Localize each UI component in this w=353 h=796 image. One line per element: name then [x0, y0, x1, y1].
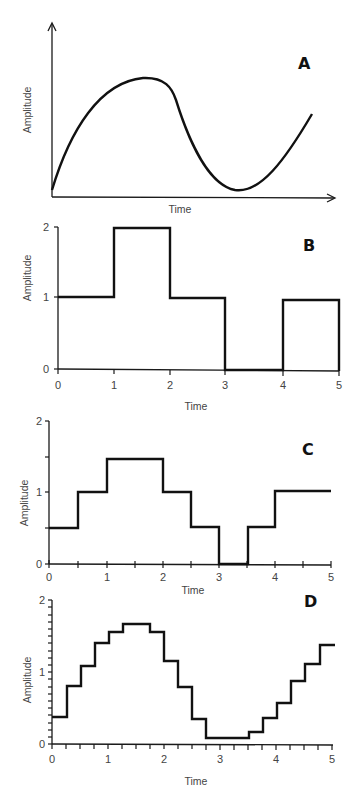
y-tick-label: 0	[36, 558, 42, 570]
y-axis-label: Amplitude	[18, 480, 30, 527]
y-axis-label: Amplitude	[21, 255, 33, 302]
y-tick-label: 2	[36, 415, 42, 427]
x-tick-label: 1	[111, 379, 117, 391]
x-tick-label: 2	[160, 571, 166, 583]
x-axis-label: Time	[185, 775, 208, 787]
panel-title: A	[298, 54, 311, 73]
y-tick-label: 2	[43, 221, 49, 233]
x-tick-label: 2	[161, 753, 167, 765]
step-signal-d	[52, 624, 335, 738]
x-axis-label: Time	[169, 203, 192, 215]
y-axis-label: Amplitude	[21, 87, 33, 134]
x-axis	[52, 197, 334, 198]
x-tick-label: 5	[336, 379, 342, 391]
panel-title: D	[304, 592, 317, 611]
y-tick-label: 2	[39, 594, 45, 606]
x-tick-label: 0	[49, 753, 55, 765]
x-tick-label: 5	[328, 571, 334, 583]
y-tick-label: 1	[39, 666, 45, 678]
step-signal-c	[49, 459, 331, 564]
x-tick-label: 3	[216, 571, 222, 583]
panel-b: 2 1 0 0 1 2 3 4 5 B Time Amplitude	[21, 221, 342, 412]
panel-title: C	[302, 440, 314, 459]
x-tick-label: 1	[105, 753, 111, 765]
x-tick-label: 4	[272, 571, 278, 583]
y-tick-label: 1	[36, 486, 42, 498]
x-axis-label: Time	[185, 400, 208, 412]
panel-d: 2 1 0 0 1 2 3 4 5 D Time Amplitude	[21, 592, 335, 787]
x-tick-label: 1	[104, 571, 110, 583]
x-tick-label: 4	[273, 753, 279, 765]
x-tick-label: 2	[167, 379, 173, 391]
x-tick-label: 0	[46, 571, 52, 583]
panel-a: A Time Amplitude	[21, 23, 335, 215]
x-axis-label: Time	[182, 584, 205, 596]
x-tick-label: 3	[222, 379, 228, 391]
analog-signal-curve	[52, 78, 312, 190]
panel-title: B	[303, 236, 315, 255]
x-tick-label: 3	[217, 753, 223, 765]
panel-c: 2 1 0 0 1 2 3 4 5 C Time Amplitude	[18, 415, 334, 596]
x-tick-label: 4	[280, 379, 286, 391]
y-ticks	[48, 600, 52, 744]
y-axis-label: Amplitude	[21, 657, 33, 704]
x-axis	[58, 369, 339, 371]
x-tick-label: 5	[329, 753, 335, 765]
step-signal-b	[58, 228, 339, 371]
y-tick-label: 0	[43, 363, 49, 375]
x-tick-label: 0	[55, 379, 61, 391]
y-tick-label: 0	[39, 738, 45, 750]
x-axis	[49, 564, 331, 565]
figure: A Time Amplitude 2 1 0 0 1 2 3 4 5 B Tim	[0, 0, 353, 796]
y-tick-label: 1	[43, 291, 49, 303]
